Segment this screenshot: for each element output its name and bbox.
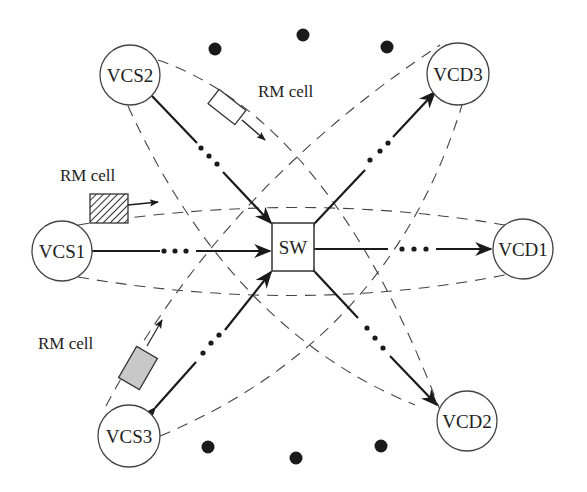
destination-vcd3: VCD3 <box>427 43 489 105</box>
rm-cell-hatched: RM cell <box>60 166 158 223</box>
source-vcs2: VCS2 <box>100 45 160 105</box>
ellipsis-dots-top <box>209 29 394 56</box>
network-diagram: SW VCS1 VCS2 VCS3 VCD1 VCD2 VCD3 RM cell… <box>0 0 587 492</box>
rm-cell-label-top: RM cell <box>258 82 314 101</box>
vcs3-label: VCS3 <box>106 426 152 447</box>
rm-cell-label-left: RM cell <box>60 166 116 185</box>
vcd3-label: VCD3 <box>433 64 483 85</box>
destination-vcd1: VCD1 <box>493 219 553 279</box>
ellipsis-dots-bottom <box>202 440 388 465</box>
rm-cell-white: RM cell <box>208 82 313 140</box>
source-vcs1: VCS1 <box>32 221 92 281</box>
vcd1-label: VCD1 <box>498 239 548 260</box>
switch-node: SW <box>272 223 314 271</box>
rm-cell-gray: RM cell <box>38 320 162 390</box>
rm-cell-label-bottom: RM cell <box>38 334 94 353</box>
switch-label: SW <box>279 237 308 258</box>
vcd2-label: VCD2 <box>442 411 492 432</box>
vcs1-label: VCS1 <box>39 241 85 262</box>
destination-vcd2: VCD2 <box>437 391 497 451</box>
source-vcs3: VCS3 <box>98 405 160 467</box>
vcs2-label: VCS2 <box>107 65 153 86</box>
